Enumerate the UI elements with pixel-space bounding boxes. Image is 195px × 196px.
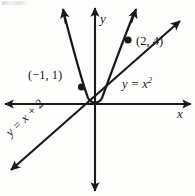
parabola-left-arrow	[63, 9, 66, 24]
point-marker-neg1-1	[78, 83, 85, 90]
coordinate-plot	[0, 0, 195, 196]
parabola-equation-base: y = x	[122, 77, 148, 91]
y-axis-label: y	[100, 12, 106, 25]
graph-figure: (−1, 1) (2, 4) y = x2 y = x + 2 x y	[0, 0, 195, 196]
parabola-equation-exponent: 2	[148, 75, 152, 85]
x-axis-label: x	[177, 107, 183, 120]
point-label-neg1-1: (−1, 1)	[28, 69, 62, 82]
parabola-equation-label: y = x2	[122, 76, 152, 91]
point-marker-2-4	[124, 36, 131, 43]
point-label-2-4: (2, 4)	[136, 35, 163, 48]
